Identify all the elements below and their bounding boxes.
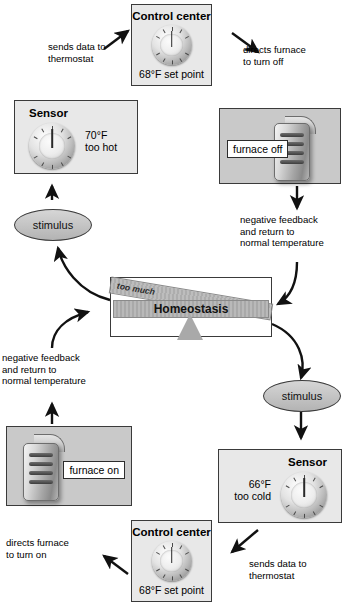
fulcrum-triangle (177, 314, 203, 340)
thermostat-dial-icon (152, 541, 192, 581)
caption-negative-feedback-right: negative feedback and return to normal t… (240, 214, 348, 249)
furnace-off-tag: furnace off (227, 140, 288, 158)
sensor-top-state: too hot (85, 141, 117, 153)
sensor-top-title: Sensor (29, 107, 137, 119)
thermostat-dial-icon (152, 25, 192, 65)
too-much-label: too much (116, 281, 155, 297)
caption-directs-furnace-on: directs furnace to turn on (6, 537, 110, 560)
caption-sends-data-top: sends data to thermostat (48, 41, 132, 64)
thermostat-dial-icon (281, 472, 327, 518)
sensor-bottom-panel[interactable]: Sensor 66°F too cold (218, 449, 342, 523)
sensor-bottom-reading: 66°F (234, 478, 271, 490)
control-center-top-title: Control center (132, 10, 211, 22)
control-center-bottom-title: Control center (132, 526, 211, 538)
stimulus-right-label: stimulus (282, 390, 322, 402)
thermostat-dial-icon (29, 123, 75, 169)
stimulus-left-label: stimulus (33, 219, 73, 231)
furnace-on-tag: furnace on (63, 461, 125, 479)
furnace-off-panel[interactable]: furnace off (219, 108, 341, 184)
sensor-top-reading: 70°F (85, 129, 117, 141)
control-center-bottom-panel[interactable]: Control center 68°F set point (131, 520, 212, 602)
furnace-on-panel[interactable]: furnace on (6, 426, 132, 506)
control-center-bottom-setpoint: 68°F set point (132, 584, 211, 596)
sensor-bottom-state: too cold (234, 490, 271, 502)
caption-sends-data-bottom: sends data to thermostat (249, 558, 343, 581)
control-center-top-setpoint: 68°F set point (132, 68, 211, 80)
stimulus-left-oval[interactable]: stimulus (14, 209, 92, 241)
homeostasis-diagram: Control center 68°F set point sends data… (0, 0, 350, 606)
caption-negative-feedback-left: negative feedback and return to normal t… (2, 352, 114, 387)
caption-directs-furnace-off: directs furnace to turn off (243, 44, 343, 67)
sensor-bottom-title: Sensor (219, 456, 327, 468)
stimulus-right-oval[interactable]: stimulus (263, 380, 341, 412)
control-center-top-panel[interactable]: Control center 68°F set point (131, 4, 212, 86)
sensor-top-panel[interactable]: Sensor 70°F too hot (14, 100, 138, 174)
